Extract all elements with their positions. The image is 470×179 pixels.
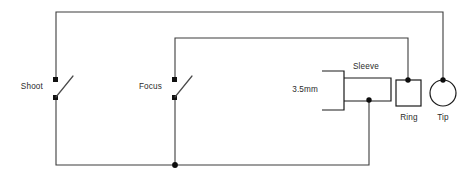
- focus-label: Focus: [139, 82, 162, 91]
- ring-label: Ring: [400, 113, 418, 122]
- ring-contact: [396, 77, 421, 106]
- circuit-schematic-canvas: Shoot Focus 3.5mm Sleeve Ring: [0, 0, 470, 179]
- focus-switch-arm: [175, 76, 192, 97]
- ring-square-outline: [396, 80, 421, 106]
- focus-switch-upper-terminal: [172, 77, 177, 82]
- jack-collar-outline: [322, 71, 344, 110]
- sleeve-label: Sleeve: [353, 62, 379, 71]
- wire-shoot-to-tip: [56, 12, 443, 80]
- focus-switch[interactable]: [172, 76, 192, 100]
- wire-focus-to-ring: [175, 38, 408, 80]
- tip-contact: [430, 77, 456, 106]
- tip-label: Tip: [437, 113, 449, 122]
- shoot-switch[interactable]: [53, 76, 73, 100]
- shoot-switch-upper-terminal: [53, 77, 58, 82]
- jack-3-5mm-body: [322, 71, 391, 110]
- wire-bottom-common-rail: [56, 98, 369, 165]
- ring-contact-dot: [405, 77, 410, 82]
- tip-circle-outline: [430, 80, 456, 106]
- circuit-diagram: Shoot Focus 3.5mm Sleeve Ring: [0, 0, 470, 179]
- tip-contact-dot: [440, 77, 445, 82]
- jack-barrel-outline: [344, 78, 391, 101]
- shoot-label: Shoot: [21, 82, 44, 91]
- shoot-switch-arm: [56, 76, 73, 97]
- jack-size-label: 3.5mm: [292, 85, 318, 94]
- bottom-rail-junction-dot: [172, 162, 178, 168]
- sleeve-contact-dot: [366, 97, 371, 102]
